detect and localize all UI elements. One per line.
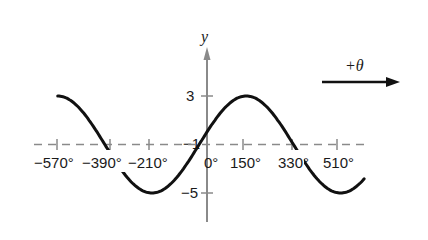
x-tick-neg390: −390° (82, 154, 122, 171)
x-tick-0: 0° (204, 154, 218, 171)
y-axis-label: y (199, 28, 209, 46)
y-axis: y 3 −1 −5 (181, 28, 213, 222)
y-axis-arrow-icon (204, 47, 211, 60)
direction-annotation: +θ (322, 57, 400, 87)
y-tick-3: 3 (186, 87, 194, 104)
x-tick-labels: −570° −390° −210° 0° 150° 330° 510° (34, 148, 354, 172)
right-arrow-icon (386, 77, 400, 87)
plus-theta-label: +θ (345, 57, 364, 74)
x-tick-neg570: −570° (34, 154, 74, 171)
x-tick-330: 330° (278, 154, 309, 171)
x-tick-510: 510° (323, 154, 354, 171)
y-tick-neg5: −5 (181, 184, 198, 201)
x-tick-neg210: −210° (128, 154, 168, 171)
x-tick-150: 150° (230, 154, 261, 171)
sinusoid-chart: y 3 −1 −5 −570° −390° −210° 0° 150° 330°… (0, 0, 428, 240)
